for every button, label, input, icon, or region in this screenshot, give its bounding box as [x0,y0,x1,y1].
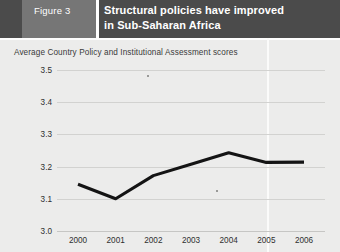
paper-speck [216,190,218,192]
chart-plot-area [0,0,340,252]
figure-container: Figure 3 Structural policies have improv… [0,0,340,252]
data-line-average-cpia [78,153,304,199]
paper-speck [147,75,149,77]
